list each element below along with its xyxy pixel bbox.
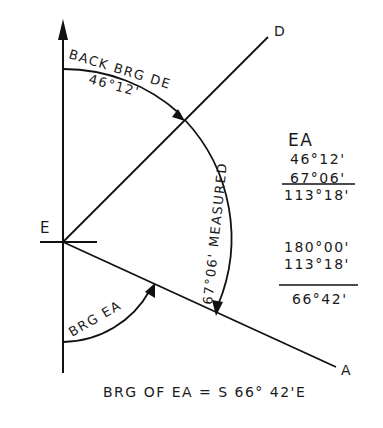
computation-step2-result: 66°42': [292, 291, 347, 307]
computation-step1-result: 113°18': [284, 187, 350, 203]
bearing-ea-label: BRG EA: [66, 297, 124, 339]
bearing-diagram: E D A BACK BRG DE 46°12' 67°06' MEASURED…: [0, 0, 383, 428]
conclusion-text: BRG OF EA = S 66° 42'E: [103, 384, 306, 400]
north-meridian: [58, 19, 68, 373]
computation-step2-line2: 113°18': [284, 256, 350, 272]
point-label-a: A: [341, 362, 352, 378]
back-bearing-arrow-icon: [172, 109, 185, 121]
computation-block: EA 46°12' 67°06' 113°18' 180°00' 113°18'…: [279, 130, 358, 307]
computation-step2-line1: 180°00': [284, 239, 350, 255]
point-label-d: D: [274, 23, 286, 39]
computation-title: EA: [288, 130, 313, 150]
computation-step1-line1: 46°12': [290, 151, 345, 167]
north-arrow-icon: [58, 19, 68, 40]
point-label-e: E: [40, 219, 51, 237]
